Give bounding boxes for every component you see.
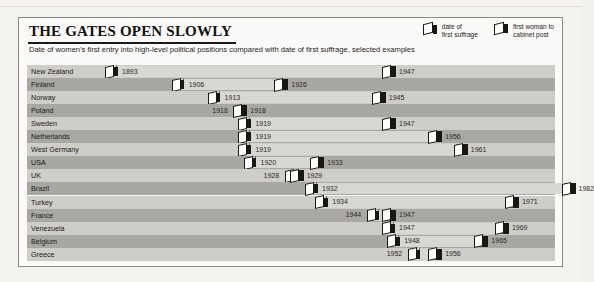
open-gate-icon (382, 222, 397, 235)
legend-label-first-suffrage: date of first suffrage (442, 22, 478, 40)
suffrage-year-label: 1918 (212, 107, 228, 114)
cabinet-year-label: 1929 (307, 172, 323, 179)
suffrage-year-label: 1944 (346, 211, 362, 218)
cabinet-year-label: 1956 (445, 250, 461, 257)
closed-gate-icon (454, 143, 469, 156)
open-gate-icon (315, 196, 330, 209)
cabinet-year-label: 1956 (445, 133, 461, 140)
cabinet-year-label: 1947 (399, 120, 415, 127)
open-gate-icon (105, 65, 120, 78)
open-gate-icon (244, 156, 259, 169)
legend-label-cabinet-post: first woman to cabinet post (513, 22, 554, 40)
closed-gate-icon (428, 130, 443, 143)
table-row[interactable]: Poland19181918 (27, 104, 555, 117)
row-country-label: West Germany (31, 145, 79, 154)
table-row[interactable]: Brazil19321982 (27, 182, 555, 195)
open-gate-icon (423, 22, 438, 35)
table-row[interactable]: France19441947 (27, 209, 555, 222)
cabinet-year-label: 1982 (579, 185, 594, 192)
suffrage-year-label: 1893 (122, 68, 138, 75)
table-row[interactable]: Greece19521956 (27, 248, 555, 261)
table-row[interactable]: West Germany19191961 (27, 143, 555, 156)
open-gate-icon (238, 117, 253, 130)
gap-bar (312, 183, 564, 194)
suffrage-year-label: 1919 (255, 146, 271, 153)
table-row[interactable]: Norway19131945 (27, 91, 555, 104)
cabinet-year-label: 1947 (399, 68, 415, 75)
row-country-label: Netherlands (31, 132, 70, 141)
closed-gate-icon (382, 117, 397, 130)
gap-bar (112, 66, 384, 77)
table-row[interactable]: Sweden19191947 (27, 117, 555, 130)
open-gate-icon (408, 248, 423, 261)
suffrage-year-label: 1947 (399, 224, 415, 231)
page-title: THE GATES OPEN SLOWLY (29, 23, 232, 40)
table-row[interactable]: Turkey19341971 (27, 196, 555, 209)
suffrage-year-label: 1919 (255, 120, 271, 127)
cabinet-year-label: 1961 (471, 146, 487, 153)
table-row[interactable]: UK19281929 (27, 169, 555, 182)
row-country-label: Poland (31, 106, 53, 115)
closed-gate-icon (505, 196, 520, 209)
cabinet-year-label: 1926 (291, 81, 307, 88)
closed-gate-icon (274, 78, 289, 91)
row-country-label: Norway (31, 93, 55, 102)
closed-gate-icon (562, 182, 577, 195)
title-underline (28, 42, 236, 44)
closed-gate-icon (495, 222, 510, 235)
closed-gate-icon (474, 235, 489, 248)
chart-subtitle: Date of women's first entry into high-le… (29, 45, 429, 55)
cabinet-year-label: 1918 (250, 107, 266, 114)
closed-gate-icon (310, 156, 325, 169)
cabinet-year-label: 1969 (512, 224, 528, 231)
table-row[interactable]: Finland19061926 (27, 78, 555, 91)
open-gate-icon (208, 91, 223, 104)
row-country-label: France (31, 211, 53, 220)
gap-bar (245, 144, 455, 155)
row-country-label: Greece (31, 250, 55, 259)
legend: date of first suffrage first woman to ca… (423, 22, 554, 40)
cabinet-year-label: 1933 (327, 159, 343, 166)
row-country-label: Turkey (31, 198, 53, 207)
row-country-label: Finland (31, 80, 55, 89)
table-row[interactable]: New Zealand18931947 (27, 65, 555, 78)
suffrage-year-label: 1906 (189, 81, 205, 88)
row-country-label: Sweden (31, 119, 57, 128)
suffrage-year-label: 1934 (332, 198, 348, 205)
chart-card: THE GATES OPEN SLOWLY Date of women's fi… (18, 17, 563, 267)
row-country-label: Brazil (31, 184, 49, 193)
suffrage-year-label: 1952 (387, 250, 403, 257)
closed-gate-icon (428, 248, 443, 261)
legend-item-cabinet-post: first woman to cabinet post (494, 22, 554, 40)
open-gate-icon (238, 143, 253, 156)
closed-gate-icon (290, 169, 305, 182)
open-gate-icon (367, 209, 382, 222)
chart-plot-area: New Zealand18931947Finland19061926Norway… (27, 65, 555, 261)
page-top-rule (0, 6, 581, 7)
table-row[interactable]: Belgium19481965 (27, 235, 555, 248)
cabinet-year-label: 1947 (399, 211, 415, 218)
closed-gate-icon (494, 22, 509, 35)
table-row[interactable]: Netherlands19191956 (27, 130, 555, 143)
gap-bar (245, 131, 430, 142)
closed-gate-icon (372, 91, 387, 104)
row-country-label: Belgium (31, 237, 57, 246)
open-gate-icon (305, 182, 320, 195)
suffrage-year-label: 1919 (255, 133, 271, 140)
open-gate-icon (387, 235, 402, 248)
open-gate-icon (172, 78, 187, 91)
suffrage-year-label: 1913 (225, 94, 241, 101)
closed-gate-icon (382, 209, 397, 222)
closed-gate-icon (233, 104, 248, 117)
table-row[interactable]: Venezuela19471969 (27, 222, 555, 235)
cabinet-year-label: 1945 (389, 94, 405, 101)
table-row[interactable]: USA19201933 (27, 156, 555, 169)
suffrage-year-label: 1928 (264, 172, 280, 179)
gap-bar (322, 197, 507, 208)
row-country-label: New Zealand (31, 67, 73, 76)
suffrage-year-label: 1920 (261, 159, 277, 166)
row-country-label: USA (31, 158, 46, 167)
closed-gate-icon (382, 65, 397, 78)
suffrage-year-label: 1948 (404, 237, 420, 244)
